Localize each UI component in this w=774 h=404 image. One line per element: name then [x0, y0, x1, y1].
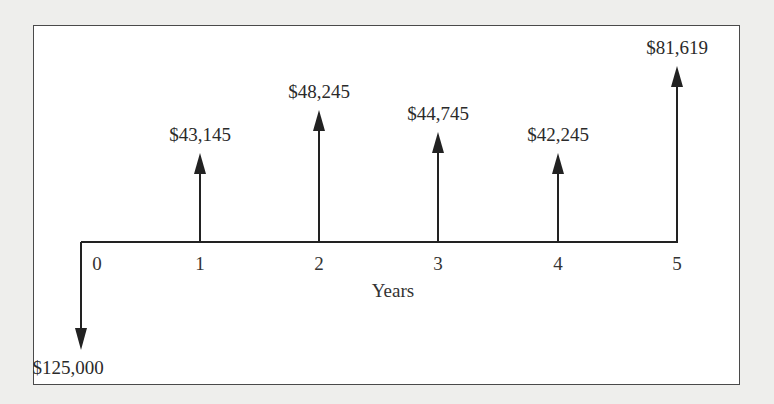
- flow-label-year-4: $42,245: [527, 125, 589, 144]
- tick-label-1: 1: [195, 254, 205, 273]
- flow-label-year-3: $44,745: [407, 104, 469, 123]
- flow-label-year-1: $43,145: [169, 125, 231, 144]
- arrow-year-1: [194, 153, 206, 242]
- arrow-year-4: [552, 153, 564, 242]
- axis-title: Years: [372, 281, 414, 300]
- flow-label-year-2: $48,245: [288, 82, 350, 101]
- flow-label-year-0: $125,000: [32, 358, 103, 377]
- tick-label-5: 5: [672, 254, 682, 273]
- cash-flow-diagram: [0, 0, 774, 404]
- flow-label-year-5: $81,619: [646, 38, 708, 57]
- tick-label-2: 2: [314, 254, 324, 273]
- tick-label-3: 3: [433, 254, 443, 273]
- arrow-year-5: [671, 66, 683, 242]
- arrow-year-3: [432, 132, 444, 242]
- arrow-year-0: [75, 242, 87, 350]
- arrow-year-2: [313, 110, 325, 242]
- tick-label-0: 0: [92, 254, 102, 273]
- tick-label-4: 4: [553, 254, 563, 273]
